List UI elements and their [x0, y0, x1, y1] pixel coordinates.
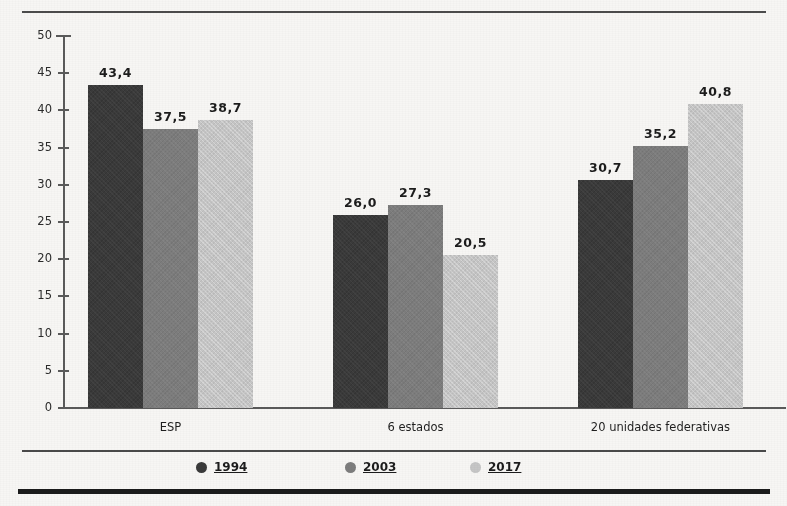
legend-swatch-icon — [470, 462, 481, 473]
bar — [633, 146, 688, 408]
bar — [198, 120, 253, 408]
bar — [88, 85, 143, 408]
chart-page: 05101520253035404550 43,437,538,726,027,… — [0, 0, 787, 506]
x-axis-category-label: 20 unidades federativas — [518, 420, 787, 434]
x-axis-category-label: 6 estados — [273, 420, 558, 434]
legend-item: 1994 — [196, 460, 247, 474]
legend-swatch-icon — [345, 462, 356, 473]
bottom-thick-rule — [18, 489, 770, 494]
bar — [688, 104, 743, 408]
legend-item: 2017 — [470, 460, 521, 474]
legend-label: 1994 — [214, 460, 247, 474]
bar-value-label: 20,5 — [437, 235, 504, 250]
bar — [333, 215, 388, 408]
bar-value-label: 43,4 — [82, 65, 149, 80]
legend-item: 2003 — [345, 460, 396, 474]
footer-clipped-caption — [330, 497, 782, 506]
bar-value-label: 40,8 — [682, 84, 749, 99]
legend-label: 2017 — [488, 460, 521, 474]
chart-legend: 199420032017 — [0, 458, 787, 484]
bar — [443, 255, 498, 408]
bar — [143, 129, 198, 408]
bar-value-label: 38,7 — [192, 100, 259, 115]
legend-divider-rule — [22, 450, 766, 452]
bar-series-layer: 43,437,538,726,027,320,530,735,240,8 — [0, 0, 787, 430]
legend-swatch-icon — [196, 462, 207, 473]
x-axis-category-label: ESP — [28, 420, 313, 434]
bar — [578, 180, 633, 408]
legend-label: 2003 — [363, 460, 396, 474]
bar — [388, 205, 443, 408]
bar-value-label: 30,7 — [572, 160, 639, 175]
bar-value-label: 27,3 — [382, 185, 449, 200]
bar-value-label: 35,2 — [627, 126, 694, 141]
chart-plot-area: 05101520253035404550 43,437,538,726,027,… — [0, 0, 787, 430]
